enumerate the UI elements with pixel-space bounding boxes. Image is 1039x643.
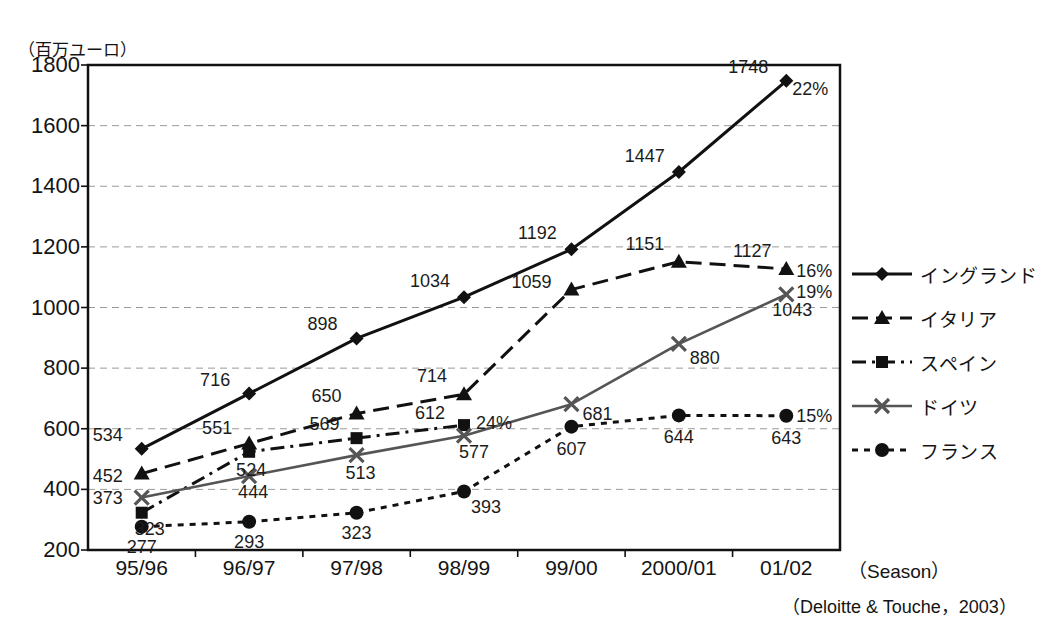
series-marker-2-2	[351, 432, 363, 444]
series-marker-4-2	[350, 506, 364, 520]
series-marker-1-5	[671, 254, 687, 268]
x-axis-caption: （Season）	[848, 556, 950, 583]
x-axis-tick-98-99: 98/99	[438, 556, 491, 580]
series-marker-4-6	[779, 409, 793, 423]
series-line-2	[142, 425, 464, 513]
series-marker-4-0	[135, 520, 149, 534]
series-marker-3-4	[564, 397, 578, 411]
legend-label: ドイツ	[912, 393, 979, 420]
legend-label: イングランド	[912, 261, 1037, 288]
legend-item-3[interactable]: ドイツ	[852, 384, 1038, 428]
legend-marker-cross-icon	[852, 395, 912, 417]
source-caption: （Deloitte & Touche，2003）	[782, 592, 1017, 618]
legend-item-0[interactable]: イングランド	[852, 252, 1038, 296]
series-marker-4-3	[457, 484, 471, 498]
series-marker-1-6	[778, 261, 794, 275]
series-marker-2-1	[243, 446, 255, 458]
series-marker-3-6	[779, 287, 793, 301]
legend-label: フランス	[912, 437, 998, 464]
series-marker-0-3	[457, 290, 471, 304]
legend-label: スペイン	[912, 349, 997, 376]
x-axis-tick-01-02: 01/02	[760, 556, 813, 580]
series-marker-4-5	[672, 408, 686, 422]
x-axis-tick-97-98: 97/98	[330, 556, 383, 580]
legend-marker-circle-icon	[852, 439, 912, 461]
legend-item-4[interactable]: フランス	[852, 428, 1038, 472]
series-marker-4-1	[242, 515, 256, 529]
series-marker-3-5	[672, 337, 686, 351]
chart-legend: イングランドイタリアスペインドイツフランス	[852, 252, 1038, 472]
x-axis-tick-99-00: 99/00	[545, 556, 598, 580]
legend-marker-square-icon	[852, 351, 912, 373]
legend-label: イタリア	[912, 305, 997, 332]
chart-container: （百万ユーロ） 20040060080010001200140016001800…	[0, 0, 1039, 643]
x-axis-tick-95-96: 95/96	[115, 556, 168, 580]
legend-marker-triangle-icon	[852, 307, 912, 329]
series-marker-0-1	[242, 387, 256, 401]
series-marker-4-4	[564, 420, 578, 434]
series-marker-2-0	[136, 507, 148, 519]
x-axis-tick-96-97: 96/97	[223, 556, 276, 580]
x-axis-tick-2000-01: 2000/01	[641, 556, 717, 580]
series-line-4	[142, 415, 787, 526]
series-marker-0-2	[350, 331, 364, 345]
legend-item-2[interactable]: スペイン	[852, 340, 1038, 384]
legend-item-1[interactable]: イタリア	[852, 296, 1038, 340]
series-marker-0-0	[135, 442, 149, 456]
legend-marker-diamond-icon	[852, 263, 912, 285]
